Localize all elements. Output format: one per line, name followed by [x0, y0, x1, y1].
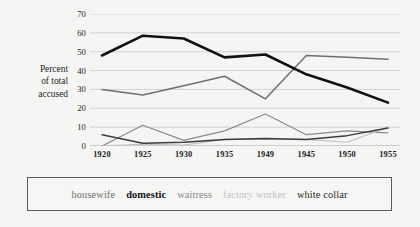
y-axis-label-line-2: of total: [2, 75, 68, 87]
chart-legend: housewifedomesticwaitressfactory workerw…: [27, 177, 392, 211]
legend-item-white-collar[interactable]: white collar: [297, 189, 348, 200]
x-tick-label: 1920: [93, 150, 111, 159]
x-tick-label: 1935: [216, 150, 234, 159]
y-tick-label: 60: [77, 28, 86, 38]
x-tick-label: 1949: [257, 150, 275, 159]
legend-item-housewife[interactable]: housewife: [72, 189, 116, 200]
x-tick-label: 1945: [298, 150, 316, 159]
x-tick-label: 1930: [175, 150, 193, 159]
series-lines: [102, 36, 388, 146]
x-tick-label: 1955: [379, 150, 397, 159]
y-tick-label: 30: [77, 84, 86, 94]
series-line-domestic: [102, 36, 388, 103]
y-tick-label: 20: [77, 103, 86, 113]
y-tick-label: 10: [77, 122, 86, 132]
line-chart-svg: [90, 14, 400, 146]
chart-figure: Percent of total accused Percent of tota…: [0, 0, 420, 227]
y-axis-label-line-1: Percent: [2, 63, 68, 75]
gridlines: [90, 14, 400, 146]
series-line-white-collar: [102, 128, 388, 143]
x-tick-label: 1925: [134, 150, 152, 159]
y-tick-label: 40: [77, 66, 86, 76]
legend-item-waitress[interactable]: waitress: [177, 189, 212, 200]
legend-item-factory-worker[interactable]: factory worker: [223, 189, 286, 200]
y-tick-label: 50: [77, 47, 86, 57]
y-tick-label: 0: [82, 141, 86, 151]
y-tick-label: 70: [77, 9, 86, 19]
y-axis-label: Percent of total accused: [2, 63, 68, 100]
series-line-waitress: [102, 114, 388, 146]
legend-item-domestic[interactable]: domestic: [126, 189, 166, 200]
x-tick-label: 1950: [338, 150, 356, 159]
plot-area: 010203040506070 192019251930193519491945…: [90, 14, 400, 146]
series-line-housewife: [102, 55, 388, 98]
y-axis-label-line-3: accused: [2, 88, 68, 100]
